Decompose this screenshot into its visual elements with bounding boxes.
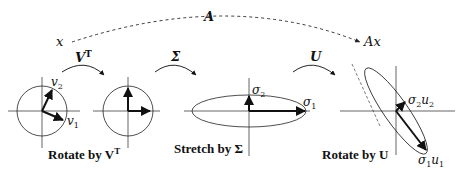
overall-map-arrow <box>72 16 360 42</box>
label-v2: v2 <box>51 75 63 91</box>
panel-rotated <box>93 77 160 148</box>
label-A: A <box>202 9 214 24</box>
caption-rotate-VT: Rotate by VT <box>48 146 120 162</box>
label-sigma2: σ2 <box>252 83 265 99</box>
label-v1: v1 <box>67 114 79 130</box>
label-Ax: Ax <box>363 34 381 49</box>
caption-stretch-sigma: Stretch by Σ <box>174 141 243 156</box>
label-VT: VT <box>75 49 92 65</box>
label-sigma1-u1: σ1u1 <box>418 153 444 169</box>
label-sigma1: σ1 <box>303 95 316 111</box>
label-Sigma: Σ <box>170 49 181 64</box>
label-sigma2-u2: σ2u2 <box>408 93 434 109</box>
caption-rotate-U: Rotate by U <box>322 147 389 162</box>
svd-diagram: A x Ax VT Σ U v2 v1 Rotate by VT σ2 <box>0 0 462 169</box>
label-x: x <box>56 34 64 49</box>
arrow-U <box>293 65 335 75</box>
panel-original <box>8 77 80 148</box>
panel-final <box>340 62 455 161</box>
arrow-Sigma <box>155 65 196 75</box>
arrow-VT <box>62 65 104 75</box>
label-U: U <box>310 49 322 64</box>
